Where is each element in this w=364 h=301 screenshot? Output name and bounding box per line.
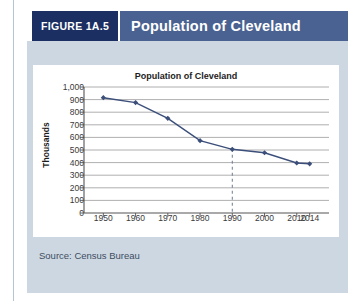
series-line [103,98,309,164]
series-markers [101,95,313,166]
data-point-marker [262,150,267,155]
figure-header: FIGURE 1A.5 Population of Cleveland [32,11,348,41]
chart-card: Population of Cleveland Thousands 1,0009… [33,65,339,237]
figure-number-label: FIGURE 1A.5 [32,11,118,41]
y-tick-marks [80,87,84,213]
chart-plot [33,65,339,237]
x-tick-marks [103,213,309,217]
figure-title: Population of Cleveland [118,11,348,41]
data-point-marker [294,160,299,165]
data-point-marker [133,100,138,105]
source-note: Source: Census Bureau [39,250,140,261]
data-point-marker [230,147,235,152]
figure-panel: Population of Cleveland Thousands 1,0009… [27,41,348,293]
data-point-marker [307,161,312,166]
page-margin-rule [13,0,14,301]
gridlines [84,87,329,200]
figure-block: FIGURE 1A.5 Population of Cleveland Popu… [27,8,348,293]
